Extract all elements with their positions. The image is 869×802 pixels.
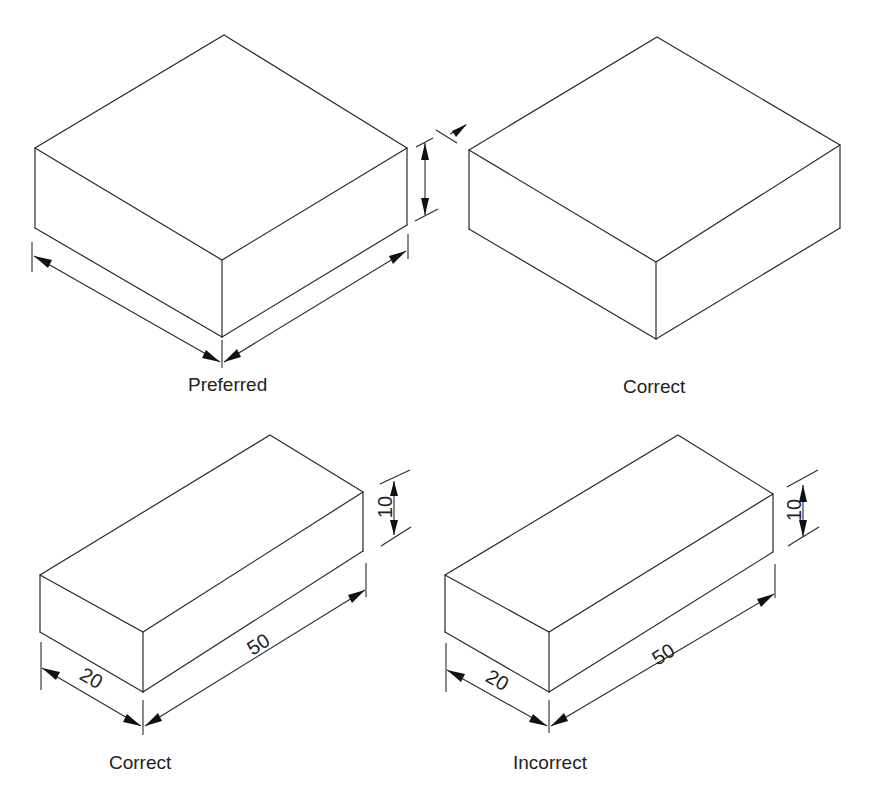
arrowhead-icon [34,256,52,268]
block-top-face [40,435,363,632]
leader-arrow-icon [452,124,467,137]
arrowhead-icon [447,670,465,682]
dim-width-20: 20 [76,663,106,693]
dimensions-preferred [32,124,467,368]
dim-width-20: 20 [482,665,512,695]
arrowhead-icon [42,668,60,680]
caption-incorrect: Incorrect [513,752,587,774]
block-top-face [35,35,407,260]
dim-length-50: 50 [243,629,274,659]
arrowhead-icon [202,350,220,362]
caption-correct-top: Correct [623,376,685,398]
caption-correct-bottom: Correct [109,752,171,774]
block-preferred [35,35,407,337]
block-incorrect [445,435,773,692]
arrowhead-icon [421,143,429,160]
dim-length-50: 50 [648,639,679,669]
caption-preferred: Preferred [188,374,267,396]
arrowhead-icon [389,251,406,264]
block-correct-bottom [40,435,363,692]
arrowhead-icon [529,714,547,726]
dim-height-10: 10 [783,499,805,521]
dim-height-10: 10 [374,496,396,518]
dimensions-correct-bottom: 20 50 10 [41,470,411,735]
block-top-face [469,37,840,262]
arrowhead-icon [123,714,141,726]
isometric-dimensioning-diagram: 20 50 10 20 50 10 [0,0,869,802]
dimensions-incorrect: 20 50 10 [446,470,819,733]
block-correct-top [469,37,840,339]
arrowhead-icon [224,349,241,362]
block-top-face [445,435,773,632]
arrowhead-icon [390,481,398,496]
arrowhead-icon [551,713,568,726]
arrowhead-icon [390,520,398,535]
arrowhead-icon [757,594,774,607]
arrowhead-icon [421,198,429,215]
arrowhead-icon [145,713,162,726]
arrowhead-icon [348,590,365,603]
